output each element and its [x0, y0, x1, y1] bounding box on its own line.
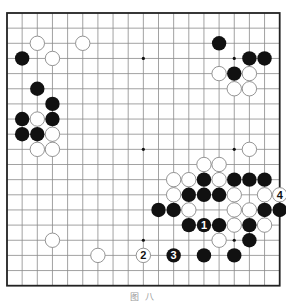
black-stone	[151, 203, 165, 217]
white-stone-icon	[166, 188, 180, 202]
white-stone-icon	[45, 142, 59, 156]
black-stone	[166, 203, 180, 217]
white-stone	[30, 142, 44, 156]
white-stone	[212, 172, 226, 186]
black-stone	[182, 188, 196, 202]
black-stone	[45, 97, 59, 111]
white-stone-icon	[30, 36, 44, 50]
white-stone-icon	[45, 51, 59, 65]
white-stone-icon	[212, 172, 226, 186]
white-stone	[182, 172, 196, 186]
white-stone-icon	[227, 82, 241, 96]
black-stone-icon	[227, 248, 241, 262]
white-stone-icon	[76, 36, 90, 50]
black-stone-icon	[273, 203, 287, 217]
black-stone	[242, 172, 256, 186]
move-number-label: 3	[171, 249, 177, 261]
black-stone-icon	[45, 112, 59, 126]
white-stone	[45, 142, 59, 156]
white-stone-icon	[45, 233, 59, 247]
black-stone-icon	[30, 127, 44, 141]
white-stone-icon	[242, 66, 256, 80]
white-stone	[30, 112, 44, 126]
black-stone-icon	[15, 127, 29, 141]
white-stone-icon	[242, 82, 256, 96]
black-stone	[227, 172, 241, 186]
move-number-label: 2	[140, 249, 146, 261]
black-stone-icon	[182, 188, 196, 202]
black-stone	[273, 203, 287, 217]
white-stone-icon	[30, 142, 44, 156]
black-stone-icon	[242, 51, 256, 65]
white-stone	[197, 157, 211, 171]
white-stone-icon	[242, 142, 256, 156]
black-stone	[15, 51, 29, 65]
white-stone-icon	[212, 157, 226, 171]
white-stone-icon	[242, 203, 256, 217]
black-stone-move-1: 1	[197, 218, 211, 232]
black-stone-icon	[212, 188, 226, 202]
white-stone-icon	[257, 218, 271, 232]
white-stone	[242, 82, 256, 96]
black-stone	[242, 218, 256, 232]
white-stone	[242, 203, 256, 217]
black-stone	[15, 127, 29, 141]
white-stone	[30, 36, 44, 50]
black-stone	[197, 172, 211, 186]
star-point-icon	[142, 57, 145, 60]
white-stone	[227, 188, 241, 202]
black-stone-icon	[197, 188, 211, 202]
black-stone-icon	[30, 82, 44, 96]
white-stone	[45, 51, 59, 65]
black-stone-icon	[197, 172, 211, 186]
white-stone-icon	[257, 188, 271, 202]
white-stone-icon	[166, 172, 180, 186]
white-stone-icon	[182, 172, 196, 186]
black-stone-icon	[242, 172, 256, 186]
black-stone-icon	[212, 218, 226, 232]
black-stone	[227, 248, 241, 262]
white-stone	[257, 188, 271, 202]
black-stone	[227, 66, 241, 80]
black-stone	[242, 51, 256, 65]
black-stone-icon	[257, 172, 271, 186]
white-stone	[45, 233, 59, 247]
black-stone-icon	[151, 203, 165, 217]
move-number-label: 1	[201, 219, 207, 231]
white-stone-icon	[227, 203, 241, 217]
white-stone	[166, 188, 180, 202]
black-stone-icon	[242, 218, 256, 232]
black-stone	[197, 248, 211, 262]
white-stone-move-4: 4	[273, 188, 287, 202]
white-stone-move-2: 2	[136, 248, 150, 262]
black-stone	[45, 112, 59, 126]
black-stone	[242, 233, 256, 247]
black-stone	[257, 172, 271, 186]
black-stone	[212, 188, 226, 202]
black-stone-icon	[182, 218, 196, 232]
white-stone-icon	[45, 127, 59, 141]
white-stone-icon	[212, 66, 226, 80]
white-stone	[212, 66, 226, 80]
black-stone	[30, 127, 44, 141]
black-stone-icon	[257, 203, 271, 217]
white-stone	[212, 233, 226, 247]
white-stone	[257, 218, 271, 232]
white-stone-icon	[197, 157, 211, 171]
white-stone-icon	[30, 112, 44, 126]
black-stone-icon	[242, 233, 256, 247]
black-stone	[197, 188, 211, 202]
black-stone-icon	[166, 203, 180, 217]
white-stone	[242, 66, 256, 80]
move-number-label: 4	[277, 189, 284, 201]
black-stone	[257, 51, 271, 65]
white-stone-icon	[182, 203, 196, 217]
white-stone-icon	[91, 248, 105, 262]
white-stone	[227, 203, 241, 217]
white-stone	[76, 36, 90, 50]
white-stone	[227, 218, 241, 232]
white-stone-icon	[212, 233, 226, 247]
white-stone	[91, 248, 105, 262]
white-stone	[166, 172, 180, 186]
white-stone-icon	[227, 218, 241, 232]
